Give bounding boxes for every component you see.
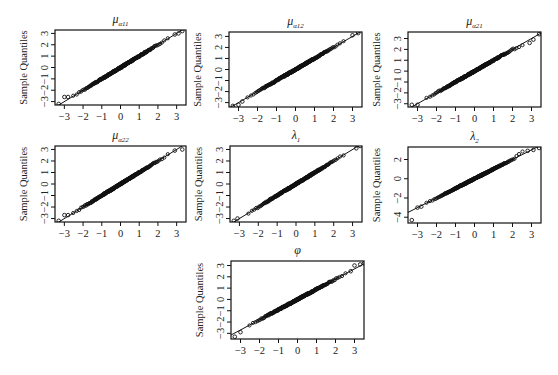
x-tick-label: 0 <box>118 228 123 239</box>
y-tick-label: 1 <box>39 170 50 175</box>
x-tick-label: −2 <box>431 229 442 240</box>
panel-title: φ <box>294 243 301 257</box>
x-tick-label: −2 <box>254 345 265 356</box>
y-tick-label: −2 <box>39 201 50 212</box>
y-tick-label: 1 <box>215 286 226 291</box>
y-tick-label: 2 <box>215 274 226 279</box>
x-tick-label: 3 <box>350 113 355 124</box>
x-tick-label: 3 <box>350 228 355 239</box>
qq-panel-mu_a12: μα12Sample Quantiles−3−2−10123−3−2−10123 <box>192 14 362 124</box>
qq-reference-line <box>231 264 364 335</box>
x-tick-label: 1 <box>491 113 496 124</box>
y-tick-label: −3 <box>39 96 50 107</box>
y-axis-label: Sample Quantiles <box>18 30 29 104</box>
qq-points <box>410 32 541 106</box>
y-tick-label: −2 <box>392 87 403 98</box>
y-tick-label: −2 <box>392 192 403 203</box>
x-tick-label: 2 <box>331 228 336 239</box>
panel-title: λ1 <box>291 128 301 144</box>
x-tick-label: 3 <box>529 229 534 240</box>
x-tick-label: 0 <box>118 111 123 122</box>
y-tick-label: −3 <box>215 328 226 339</box>
x-tick-label: 0 <box>295 345 300 356</box>
qq-panel-lambda_2: λ2Sample Quantiles−3−2−10123−4−202 <box>371 129 541 240</box>
x-tick-label: 0 <box>472 229 477 240</box>
x-tick-label: 2 <box>155 228 160 239</box>
outlier-point <box>528 41 532 45</box>
qq-reference-line <box>408 145 541 212</box>
y-tick-label: 3 <box>39 31 50 36</box>
panel-title: μα11 <box>111 12 128 28</box>
panel-title: μα12 <box>286 14 304 30</box>
plot-frame <box>408 147 541 223</box>
x-tick-label: −2 <box>431 113 442 124</box>
x-tick-label: 2 <box>510 113 515 124</box>
y-axis-label: Sample Quantiles <box>193 147 204 221</box>
outlier-point <box>410 218 414 222</box>
y-tick-label: −3 <box>213 97 224 108</box>
x-tick-label: 2 <box>155 111 160 122</box>
x-tick-label: −1 <box>450 229 461 240</box>
y-tick-label: 0 <box>213 67 224 72</box>
x-tick-label: −1 <box>272 228 283 239</box>
y-tick-label: 2 <box>392 157 403 162</box>
qq-reference-line <box>55 144 186 225</box>
x-tick-label: 3 <box>529 113 534 124</box>
y-tick-label: 3 <box>215 263 226 268</box>
y-tick-label: −1 <box>213 75 224 86</box>
qq-panel-lambda_1: λ1Sample Quantiles−3−2−10123−3−2−10123 <box>193 128 362 239</box>
x-tick-label: 0 <box>293 228 298 239</box>
y-tick-label: 0 <box>392 69 403 74</box>
x-tick-label: −3 <box>412 229 423 240</box>
y-tick-label: 3 <box>213 34 224 39</box>
outlier-point <box>353 264 357 268</box>
y-tick-label: 2 <box>39 158 50 163</box>
x-tick-label: −3 <box>233 113 244 124</box>
x-tick-label: −3 <box>235 345 246 356</box>
y-tick-label: 0 <box>39 65 50 70</box>
x-tick-label: −1 <box>273 345 284 356</box>
outlier-point <box>181 148 185 152</box>
qq-panel-mu_a21: μα21Sample Quantiles−3−2−10123−3−2−10123 <box>371 14 541 124</box>
x-tick-label: 0 <box>472 113 477 124</box>
x-tick-label: 2 <box>510 229 515 240</box>
y-tick-label: 0 <box>214 181 225 186</box>
y-axis-label: Sample Quantiles <box>18 147 29 221</box>
x-tick-label: −2 <box>77 228 88 239</box>
qq-reference-line <box>229 31 362 108</box>
y-tick-label: 3 <box>392 36 403 41</box>
qq-plot-figure: μα11Sample Quantiles−3−2−10123−3−2−10123… <box>0 0 558 375</box>
qq-points <box>410 146 541 222</box>
y-tick-label: 1 <box>39 54 50 59</box>
x-tick-label: 1 <box>312 113 317 124</box>
panel-title: μα22 <box>111 128 129 144</box>
x-tick-label: −2 <box>253 228 264 239</box>
outlier-point <box>63 213 67 217</box>
y-axis-label: Sample Quantiles <box>371 32 382 106</box>
y-tick-label: −3 <box>392 98 403 109</box>
y-tick-label: 3 <box>39 147 50 152</box>
y-tick-label: 0 <box>215 297 226 302</box>
y-tick-label: −4 <box>392 211 403 223</box>
x-tick-label: −1 <box>96 228 107 239</box>
qq-reference-line <box>230 144 362 225</box>
x-tick-label: 1 <box>137 111 142 122</box>
y-axis-label: Sample Quantiles <box>192 32 203 106</box>
y-tick-label: 2 <box>39 42 50 47</box>
panel-title: λ2 <box>469 129 479 145</box>
x-tick-label: 2 <box>333 345 338 356</box>
x-tick-label: −2 <box>77 111 88 122</box>
x-tick-label: −2 <box>252 113 263 124</box>
y-tick-label: 1 <box>392 58 403 63</box>
qq-panel-mu_a22: μα22Sample Quantiles−3−2−10123−3−2−10123 <box>18 128 186 239</box>
y-tick-label: −3 <box>214 213 225 224</box>
y-tick-label: 3 <box>214 147 225 152</box>
y-tick-label: −2 <box>214 201 225 212</box>
x-tick-label: 1 <box>314 345 319 356</box>
y-tick-label: −3 <box>39 213 50 224</box>
y-tick-label: −1 <box>39 73 50 84</box>
qq-panel-phi: φSample Quantiles−3−2−10123−3−2−10123 <box>194 243 366 356</box>
y-tick-label: 0 <box>392 176 403 181</box>
x-tick-label: 1 <box>491 229 496 240</box>
qq-reference-line <box>55 28 186 108</box>
